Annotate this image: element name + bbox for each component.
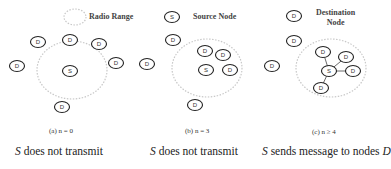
caption-b-text: does not transmit — [156, 145, 238, 157]
destination-node-c-4-label: D — [270, 63, 275, 69]
destination-node-c-5-label: D — [319, 85, 324, 91]
caption-c-tail: D — [382, 145, 390, 157]
subcaption-a: (a) n = 0 — [49, 127, 73, 135]
destination-node-a-0: D — [31, 37, 46, 48]
destination-node-a-4-label: D — [114, 60, 119, 66]
legend-destination-node-icon-label: D — [292, 13, 297, 19]
destination-node-a-5: D — [55, 102, 70, 113]
legend-destination-node-icon: D — [287, 11, 302, 22]
source-node-c: S — [322, 66, 337, 77]
destination-node-b-3-label: D — [228, 67, 233, 73]
destination-node-a-3: D — [10, 61, 25, 72]
destination-node-a-1-label: D — [68, 37, 73, 43]
destination-node-c-3: D — [346, 66, 361, 77]
source-node-a-label: S — [68, 68, 72, 74]
destination-node-b-0-label: D — [171, 37, 176, 43]
destination-node-b-2-label: D — [221, 52, 226, 58]
destination-node-b-5-label: D — [193, 102, 198, 108]
source-node-b: S — [199, 65, 214, 76]
destination-node-b-5: D — [188, 100, 203, 111]
destination-node-b-1: D — [198, 46, 213, 57]
legend-destination-node-label: Destination Node — [316, 8, 355, 28]
legend-destination-line2: Node — [316, 18, 355, 28]
destination-node-c-2-label: D — [344, 54, 349, 60]
caption-c: S sends message to nodes D — [262, 145, 391, 157]
destination-node-c-1-label: D — [321, 49, 326, 55]
destination-node-c-0-label: D — [292, 38, 297, 44]
destination-node-a-2-label: D — [97, 41, 102, 47]
destination-node-a-1: D — [63, 35, 78, 46]
caption-c-text: sends message to nodes — [268, 145, 383, 157]
destination-node-b-1-label: D — [203, 48, 208, 54]
legend-radio-range-label: Radio Range — [89, 12, 133, 21]
destination-node-b-4-label: D — [145, 61, 150, 67]
caption-a-text: does not transmit — [21, 145, 103, 157]
caption-a: S does not transmit — [15, 145, 103, 157]
destination-node-c-4: D — [265, 61, 280, 72]
legend-destination-line1: Destination — [316, 8, 355, 18]
destination-node-c-1: D — [316, 47, 331, 58]
source-node-c-label: S — [327, 68, 331, 74]
source-node-b-label: S — [204, 67, 208, 73]
legend-source-node-icon-label: S — [170, 14, 174, 20]
legend-radio-range-icon — [64, 9, 86, 25]
legend-source-node-label: Source Node — [193, 12, 236, 21]
destination-node-a-0-label: D — [36, 39, 41, 45]
subcaption-b: (b) n = 3 — [185, 127, 209, 135]
caption-b: S does not transmit — [150, 145, 238, 157]
destination-node-a-5-label: D — [60, 104, 65, 110]
destination-node-b-2: D — [216, 50, 231, 61]
destination-node-c-2: D — [339, 52, 354, 63]
destination-node-c-0: D — [287, 36, 302, 47]
destination-node-a-4: D — [109, 58, 124, 69]
destination-node-b-3: D — [223, 65, 238, 76]
destination-node-b-0: D — [166, 35, 181, 46]
legend-source-node-icon: S — [165, 12, 180, 23]
destination-node-b-4: D — [140, 59, 155, 70]
subcaption-c: (c) n ≥ 4 — [312, 128, 336, 136]
destination-node-c-3-label: D — [351, 68, 356, 74]
destination-node-c-5: D — [314, 83, 329, 94]
source-node-a: S — [63, 66, 78, 77]
destination-node-a-2: D — [92, 39, 107, 50]
destination-node-a-3-label: D — [15, 63, 20, 69]
